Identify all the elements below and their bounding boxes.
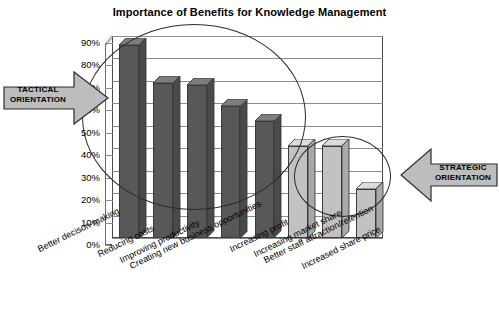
y-axis-tick-label: 30% [64,172,100,183]
tactical-orientation-label: TACTICAL ORIENTATION [6,85,70,105]
strategic-orientation-line2: ORIENTATION [431,173,495,183]
strategic-orientation-line1: STRATEGIC [431,163,495,173]
page-title: Importance of Benefits for Knowledge Man… [0,6,499,18]
tactical-cluster-ellipse [82,24,306,210]
y-axis-tick [105,43,113,44]
y-axis-tick-label: 0% [64,239,100,250]
y-axis-tick [105,223,113,224]
y-axis-tick-label: 90% [64,37,100,48]
strategic-cluster-ellipse [294,136,391,217]
strategic-orientation-label: STRATEGIC ORIENTATION [431,163,495,183]
chart-figure: Importance of Benefits for Knowledge Man… [0,0,499,318]
tactical-orientation-line1: TACTICAL [6,85,70,95]
y-axis-tick [105,200,113,201]
tactical-orientation-line2: ORIENTATION [6,95,70,105]
y-axis-tick-label: 20% [64,194,100,205]
